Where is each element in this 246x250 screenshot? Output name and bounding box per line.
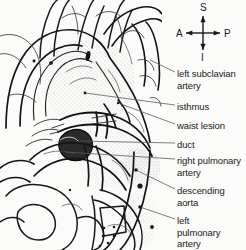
label-line: artery [177, 238, 220, 250]
label-isthmus: isthmus [177, 101, 209, 113]
label-right-pulmonary-artery: right pulmonaryartery [177, 155, 241, 178]
label-line: descending [177, 185, 225, 197]
calcification-dot [102, 235, 105, 238]
label-line: aorta [177, 197, 225, 209]
label-line: isthmus [177, 101, 209, 113]
calcification-dot [113, 226, 116, 229]
marker-dot [134, 168, 138, 172]
marker-dot [69, 189, 71, 191]
compass-label-anterior: A [176, 28, 183, 39]
label-line: waist lesion [177, 120, 225, 132]
anatomical-figure: SIAP left subclavianarteryisthmuswaist l… [0, 0, 246, 250]
label-left-pulmonary-artery: leftpulmonaryartery [177, 215, 220, 250]
label-left-subclavian-artery: left subclavianartery [177, 68, 236, 91]
label-line: artery [177, 167, 241, 179]
marker-dot [150, 225, 154, 229]
calcification-dot [107, 242, 110, 245]
marker-dot [138, 205, 142, 209]
marker-dot [84, 92, 87, 95]
label-line: artery [177, 80, 236, 92]
compass-label-posterior: P [224, 28, 231, 39]
label-line: left [177, 215, 220, 227]
label-line: right pulmonary [177, 155, 241, 167]
marker-dot [49, 61, 52, 64]
label-duct: duct [177, 139, 195, 151]
label-descending-aorta: descendingaorta [177, 185, 225, 208]
calcification-dot [103, 227, 106, 230]
label-line: duct [177, 139, 195, 151]
label-line: pulmonary [177, 227, 220, 239]
compass-label-superior: S [200, 2, 207, 13]
label-line: left subclavian [177, 68, 236, 80]
calcification-dot [99, 245, 102, 248]
marker-dot [137, 183, 142, 188]
compass-label-inferior: I [201, 52, 204, 63]
marker-dot [33, 60, 36, 63]
calcification-dot [113, 235, 116, 238]
label-waist-lesion: waist lesion [177, 120, 225, 132]
marker-dot [117, 102, 119, 104]
